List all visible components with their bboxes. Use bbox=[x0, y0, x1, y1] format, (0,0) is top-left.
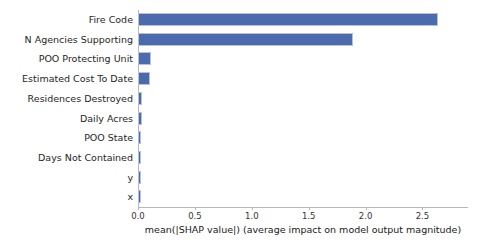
x-axis-tick-label: 0.5 bbox=[181, 211, 209, 221]
shap-feature-importance-chart: Fire CodeN Agencies SupportingPOO Protec… bbox=[0, 0, 477, 248]
bar bbox=[138, 151, 141, 164]
tick-mark bbox=[366, 207, 367, 210]
y-axis-tick-label: Daily Acres bbox=[0, 109, 133, 129]
x-axis-title: mean(|SHAP value|) (average impact on mo… bbox=[138, 224, 468, 235]
x-axis-tick-label: 2.5 bbox=[408, 211, 436, 221]
plot-area bbox=[138, 10, 468, 207]
y-axis-tick-label: POO State bbox=[0, 128, 133, 148]
bar-row bbox=[138, 69, 468, 89]
y-axis-tick-label: Estimated Cost To Date bbox=[0, 69, 133, 89]
bar-row bbox=[138, 10, 468, 30]
tick-mark bbox=[252, 207, 253, 210]
bar bbox=[138, 92, 142, 105]
bar-row bbox=[138, 49, 468, 69]
bar bbox=[138, 112, 142, 125]
x-axis-tick-label: 1.5 bbox=[295, 211, 323, 221]
bar bbox=[138, 52, 151, 65]
bar-row bbox=[138, 89, 468, 109]
tick-mark bbox=[422, 207, 423, 210]
bar bbox=[138, 33, 353, 46]
y-axis-tick-labels: Fire CodeN Agencies SupportingPOO Protec… bbox=[0, 10, 133, 207]
bar bbox=[138, 13, 438, 26]
bar-row bbox=[138, 128, 468, 148]
x-axis-tick-label: 1.0 bbox=[238, 211, 266, 221]
y-axis-tick-label: Days Not Contained bbox=[0, 148, 133, 168]
bar bbox=[138, 171, 141, 184]
y-axis-tick-label: Fire Code bbox=[0, 10, 133, 30]
x-axis-tick-label: 0.0 bbox=[124, 211, 152, 221]
y-axis-tick-label: N Agencies Supporting bbox=[0, 30, 133, 50]
x-axis-tick-label: 2.0 bbox=[352, 211, 380, 221]
y-axis-tick-label: Residences Destroyed bbox=[0, 89, 133, 109]
tick-mark bbox=[195, 207, 196, 210]
bar-row bbox=[138, 168, 468, 188]
bar-row bbox=[138, 187, 468, 207]
bar bbox=[138, 131, 141, 144]
bar-row bbox=[138, 148, 468, 168]
bar-series bbox=[138, 10, 468, 207]
y-axis-tick-label: POO Protecting Unit bbox=[0, 49, 133, 69]
bar bbox=[138, 190, 141, 203]
bar-row bbox=[138, 109, 468, 129]
tick-mark bbox=[309, 207, 310, 210]
y-axis-tick-label: x bbox=[0, 187, 133, 207]
y-axis-tick-label: y bbox=[0, 168, 133, 188]
bar bbox=[138, 72, 150, 85]
bar-row bbox=[138, 30, 468, 50]
tick-mark bbox=[138, 207, 139, 210]
